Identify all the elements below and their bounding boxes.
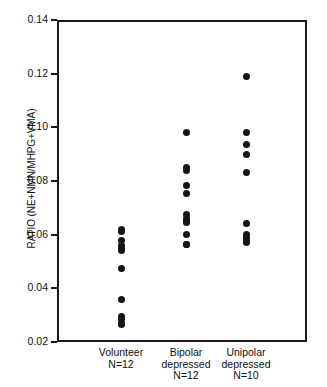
x-axis-group-label-line: N=10 bbox=[203, 370, 289, 382]
data-point bbox=[118, 265, 125, 272]
data-point bbox=[183, 190, 190, 197]
data-point bbox=[183, 231, 190, 238]
data-point bbox=[118, 247, 125, 254]
data-point bbox=[118, 321, 125, 328]
y-axis-tick-label: 0.14 bbox=[4, 13, 48, 25]
y-axis-tick-label: 0.08 bbox=[4, 174, 48, 186]
data-point bbox=[243, 73, 250, 80]
data-point bbox=[243, 141, 250, 148]
y-axis-tick-label: 0.12 bbox=[4, 67, 48, 79]
data-point bbox=[243, 239, 250, 246]
x-axis-group-label: UnipolardepressedN=10 bbox=[203, 347, 289, 382]
data-point bbox=[183, 219, 190, 226]
data-point bbox=[183, 182, 190, 189]
data-point bbox=[243, 220, 250, 227]
data-point bbox=[183, 241, 190, 248]
data-point bbox=[243, 129, 250, 136]
data-point bbox=[118, 296, 125, 303]
plot-area bbox=[57, 20, 307, 342]
data-point bbox=[243, 169, 250, 176]
data-point bbox=[183, 129, 190, 136]
data-point bbox=[183, 167, 190, 174]
scatter-plot-figure: RATIO (NE+NMN/MHPG+VMA) 0.020.040.060.08… bbox=[0, 0, 327, 387]
y-axis-tick-label: 0.10 bbox=[4, 120, 48, 132]
data-point bbox=[118, 228, 125, 235]
y-axis-tick-label: 0.04 bbox=[4, 281, 48, 293]
x-axis-group-label-line: Unipolar bbox=[203, 347, 289, 359]
y-axis-tick-label: 0.06 bbox=[4, 228, 48, 240]
data-point bbox=[243, 151, 250, 158]
y-axis-tick-label: 0.02 bbox=[4, 335, 48, 347]
